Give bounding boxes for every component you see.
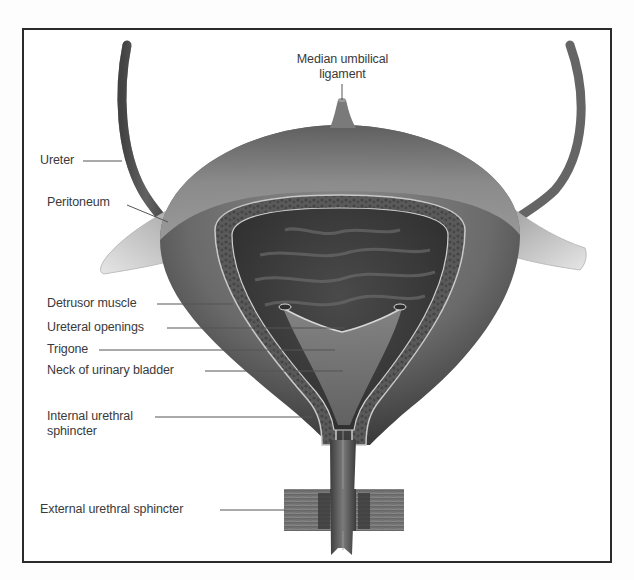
label-ureteral-openings: Ureteral openings xyxy=(47,320,144,335)
median-umbilical-ligament xyxy=(330,100,356,128)
diagram-stage: Median umbilical ligament Ureter Periton… xyxy=(0,0,634,580)
label-median-umbilical-line1: Median umbilical xyxy=(285,52,400,67)
label-ureter: Ureter xyxy=(40,153,74,168)
label-detrusor-muscle: Detrusor muscle xyxy=(47,296,137,311)
label-neck-of-urinary-bladder: Neck of urinary bladder xyxy=(47,363,174,378)
label-internal-urethral-sphincter: Internal urethral sphincter xyxy=(47,409,133,439)
right-ureter xyxy=(512,45,581,222)
right-ureteral-opening xyxy=(394,304,406,310)
label-internal-sphincter-line1: Internal urethral xyxy=(47,409,133,424)
label-internal-sphincter-line2: sphincter xyxy=(47,424,133,439)
label-trigone: Trigone xyxy=(47,342,88,357)
label-median-umbilical-ligament: Median umbilical ligament xyxy=(285,52,400,82)
bladder-illustration xyxy=(0,0,634,580)
left-ureteral-opening xyxy=(279,304,291,310)
label-median-umbilical-line2: ligament xyxy=(285,67,400,82)
label-peritoneum: Peritoneum xyxy=(47,195,110,210)
label-external-urethral-sphincter: External urethral sphincter xyxy=(40,502,183,517)
